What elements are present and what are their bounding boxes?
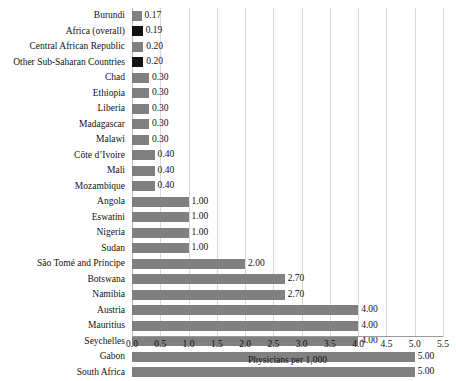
category-label: Botswana	[0, 272, 128, 288]
bar	[132, 73, 149, 83]
bar-row: 0.40	[132, 163, 443, 179]
x-axis-tick-labels: 0.00.51.01.52.02.53.03.54.04.55.05.5	[132, 340, 443, 354]
bar-row: 1.00	[132, 225, 443, 241]
category-label: Burundi	[0, 8, 128, 24]
bar	[132, 243, 189, 253]
category-label: Nigeria	[0, 225, 128, 241]
bar-row: 1.00	[132, 194, 443, 210]
category-label: Seychelles	[0, 334, 128, 350]
bar-value-label: 0.40	[158, 151, 175, 161]
bar	[132, 181, 155, 191]
bar-row: 0.30	[132, 101, 443, 117]
bar-row: 0.17	[132, 8, 443, 24]
bar-value-label: 0.30	[152, 89, 169, 99]
x-tick-label: 3.0	[296, 340, 308, 350]
bar	[132, 166, 155, 176]
category-label: Central African Republic	[0, 39, 128, 55]
category-label: Chad	[0, 70, 128, 86]
bar-rows: 0.170.190.200.200.300.300.300.300.300.40…	[132, 8, 443, 337]
category-label: Austria	[0, 303, 128, 319]
x-tick-label: 5.5	[437, 340, 449, 350]
bar-value-label: 5.00	[418, 368, 435, 378]
x-tick-label: 3.5	[324, 340, 336, 350]
bar-value-label: 4.00	[361, 321, 378, 331]
x-tick-label: 5.0	[409, 340, 421, 350]
bar	[132, 290, 285, 300]
category-label: Sudan	[0, 241, 128, 257]
bar-value-label: 0.20	[146, 58, 163, 68]
bar	[132, 212, 189, 222]
category-label: Mauritius	[0, 318, 128, 334]
bar-value-label: 2.70	[288, 290, 305, 300]
bar	[132, 88, 149, 98]
bar	[132, 259, 245, 269]
x-tick-label: 1.0	[183, 340, 195, 350]
bar-row: 0.30	[132, 70, 443, 86]
bar	[132, 321, 358, 331]
category-label: Angola	[0, 194, 128, 210]
bar	[132, 197, 189, 207]
x-tick-label: 1.5	[211, 340, 223, 350]
bar-value-label: 0.40	[158, 182, 175, 192]
x-tick-label: 4.0	[352, 340, 364, 350]
category-label: São Tomé and Príncipe	[0, 256, 128, 272]
bar-row: 2.00	[132, 256, 443, 272]
category-label: Eswatini	[0, 210, 128, 226]
x-tick-label: 0.0	[126, 340, 138, 350]
bar	[132, 42, 143, 52]
bar-value-label: 0.40	[158, 166, 175, 176]
category-label: Côte d’Ivoire	[0, 148, 128, 164]
bar-value-label: 2.00	[248, 259, 265, 269]
bar	[132, 274, 285, 284]
category-label: Liberia	[0, 101, 128, 117]
bar-row: 0.40	[132, 179, 443, 195]
bar-value-label: 0.20	[146, 42, 163, 52]
bar-row: 4.00	[132, 318, 443, 334]
bar	[132, 104, 149, 114]
bar-value-label: 1.00	[192, 228, 209, 238]
category-label: Madagascar	[0, 117, 128, 133]
bar-row: 4.00	[132, 303, 443, 319]
bar-value-label: 0.30	[152, 120, 169, 130]
plot-area: 0.170.190.200.200.300.300.300.300.300.40…	[132, 8, 443, 337]
x-axis-line	[132, 336, 443, 337]
x-tick-label: 2.0	[239, 340, 251, 350]
category-label: Mozambique	[0, 179, 128, 195]
bar-row: 0.30	[132, 86, 443, 102]
physicians-per-1000-bar-chart: BurundiAfrica (overall)Central African R…	[0, 0, 456, 381]
category-label: Namibia	[0, 287, 128, 303]
category-label: Ethiopia	[0, 86, 128, 102]
category-label: South Africa	[0, 365, 128, 381]
bar-row: 2.70	[132, 272, 443, 288]
x-tick-label: 2.5	[267, 340, 279, 350]
bar-row: 0.20	[132, 39, 443, 55]
bar-row: 5.00	[132, 365, 443, 381]
category-label: Mali	[0, 163, 128, 179]
bar-value-label: 0.30	[152, 104, 169, 114]
gridline	[443, 8, 444, 337]
bar	[132, 11, 142, 21]
x-tick-label: 0.5	[154, 340, 166, 350]
bar	[132, 26, 143, 36]
bar	[132, 228, 189, 238]
bar	[132, 150, 155, 160]
bar	[132, 135, 149, 145]
bar-value-label: 4.00	[361, 306, 378, 316]
category-axis-labels: BurundiAfrica (overall)Central African R…	[0, 8, 128, 337]
x-tick-label: 4.5	[381, 340, 393, 350]
bar-value-label: 0.19	[146, 27, 163, 37]
category-label: Malawi	[0, 132, 128, 148]
bar	[132, 367, 415, 377]
bar-value-label: 2.70	[288, 275, 305, 285]
bar-row: 0.20	[132, 55, 443, 71]
bar-row: 0.30	[132, 117, 443, 133]
category-label: Gabon	[0, 349, 128, 365]
x-axis-title: Physicians per 1,000	[132, 356, 443, 366]
bar	[132, 119, 149, 129]
bar-row: 0.19	[132, 24, 443, 40]
bar-row: 2.70	[132, 287, 443, 303]
bar-row: 1.00	[132, 241, 443, 257]
bar-value-label: 1.00	[192, 213, 209, 223]
bar-row: 0.30	[132, 132, 443, 148]
bar-row: 0.40	[132, 148, 443, 164]
